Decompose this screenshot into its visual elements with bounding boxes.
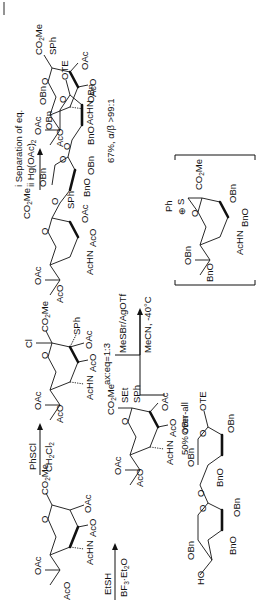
bracket-right — [175, 155, 255, 160]
acceptor-label-obn-3: OBn — [186, 448, 196, 467]
donor-bottom-label-oac: OAc — [160, 393, 170, 411]
donor-top-label-oac-top: OAc — [33, 117, 43, 135]
product-label-oac-top: OAc — [33, 267, 43, 285]
chloride-label-ring-o: O — [40, 352, 50, 359]
product-label-o-1: O — [58, 156, 68, 163]
product-yield: 67%, α/β >99:1 — [106, 98, 116, 163]
acceptor-label-o-link: O — [196, 490, 206, 497]
glycal-label-aco-2: AcO — [88, 519, 98, 537]
reaction-scheme: OAc AcO AcHN AcO OAc O CO2Me EtSH BF3·Et… — [0, 0, 262, 615]
intermediate-label-co2me: CO2Me — [194, 159, 204, 190]
donor-bottom-label-achn: AcHN — [165, 440, 175, 465]
chloride-ratio: ax:eq=1:3 — [102, 343, 112, 385]
chloride-label-achn: AcHN — [85, 375, 95, 400]
intermediate-label-achn: AcHN — [235, 230, 245, 255]
product-label-obn-1: OBn — [38, 168, 48, 187]
donor-bottom-label-co2me: CO2Me — [106, 384, 116, 415]
product-label-obn-2: OBn — [86, 156, 96, 175]
product-label-o-2: O — [58, 96, 68, 103]
product-label-oac: OAc — [80, 205, 90, 223]
donor-bottom-label-set: SEt — [120, 388, 130, 403]
product-label-obn-5: OBn — [86, 84, 96, 103]
intermediate-label-s: S — [176, 199, 186, 205]
product-label-glyco-o: O — [50, 198, 60, 205]
intermediate-label-bno-2: BnO — [240, 208, 250, 227]
acceptor-label-ho: HO — [196, 571, 206, 585]
acceptor-label-obn-4: OBn — [180, 416, 190, 435]
intermediate-label-obn-top: OBn — [183, 246, 193, 265]
step3-reagent-bottom: ii Hg(OAc)2 — [26, 140, 36, 187]
product-label-bno-1: BnO — [82, 178, 92, 197]
intermediate-label-bno: BnO — [205, 263, 215, 282]
intermediate-label-obn: OBn — [228, 184, 238, 203]
glycal-label-oac-top: OAc — [33, 557, 43, 575]
acceptor-label-obn-1: OBn — [186, 541, 196, 560]
product-label-o-link: O — [62, 143, 72, 150]
donor-bottom-label-ring-o: O — [120, 418, 130, 425]
step2-reagent-top: PhSCl — [28, 443, 38, 470]
acceptor-label-o-1: O — [198, 505, 208, 512]
glycal-label-oac: OAc — [83, 495, 93, 513]
product-label-bno-2: BnO — [86, 126, 96, 145]
product-label-obn-4: OBn — [38, 86, 48, 105]
chloride-label-aco: AcO — [55, 405, 65, 423]
donor-bottom-label-oac-top: OAc — [113, 457, 123, 475]
donor-bottom-label-aco: AcO — [135, 469, 145, 487]
step3-reagent-top: i Separation of eq. — [14, 110, 24, 187]
chloride-label-sph: SPh — [72, 317, 82, 335]
step2-reagent-bottom: CH2Cl2 — [44, 442, 54, 472]
acceptor-label-obn-5: OBn — [226, 414, 236, 433]
product-label-sph: SPh — [66, 191, 76, 209]
intermediate-label-ph: Ph — [164, 200, 174, 212]
intermediate-label-ring-o: O — [190, 210, 200, 217]
glycal-label-achn: AcHN — [85, 540, 95, 565]
product-label-ring-o: O — [40, 228, 50, 235]
step1-reagent-bottom: BF3·Et2O — [119, 558, 129, 597]
donor-top-label-ring-o: O — [40, 78, 50, 85]
acceptor-label-ote: OTE — [198, 391, 208, 411]
product-label-obn-3: OBn — [44, 111, 54, 130]
chloride-label-oac: OAc — [84, 331, 94, 349]
acceptor-label-obn-2: OBn — [232, 498, 242, 517]
donor-bottom-label-aco-2: AcO — [168, 419, 178, 437]
donor-top-label-co2me: CO2Me — [34, 24, 44, 55]
acceptor-label-o-2: O — [198, 430, 208, 437]
step4-reagent-top: MeSBr/AgOTf — [118, 294, 128, 353]
product-label-ote: OTE — [60, 60, 70, 80]
sulfonium-charge-icon: ⊕ — [177, 207, 187, 215]
product-label-achn: AcHN — [85, 250, 95, 275]
donor-top-label-achn: AcHN — [85, 100, 95, 125]
product-label-aco: AcO — [55, 285, 65, 303]
donor-bottom-label-sph: SPh — [132, 385, 142, 403]
acceptor-label-bno-2: BnO — [215, 468, 225, 487]
chloride-label-oac-top: OAc — [33, 392, 43, 410]
chloride-label-aco-2: AcO — [88, 354, 98, 372]
donor-top-label-sph: SPh — [48, 37, 58, 55]
product-label-aco-2: AcO — [88, 229, 98, 247]
acceptor-label-bno-1: BnO — [228, 536, 238, 555]
chloride-label-cl: Cl — [24, 339, 34, 348]
glycal-label-ring-o: O — [40, 516, 50, 523]
step4-reagent-bottom: MeCN, -40°C — [143, 296, 153, 353]
chloride-label-co2me: CO2Me — [40, 301, 50, 332]
bracket-left — [175, 280, 255, 285]
product-label-co2me: CO2Me — [22, 188, 32, 219]
donor-top-label-oac: OAc — [80, 52, 90, 70]
step1-reagent-top: EtSH — [103, 573, 113, 595]
glycal-label-aco: AcO — [62, 582, 72, 600]
